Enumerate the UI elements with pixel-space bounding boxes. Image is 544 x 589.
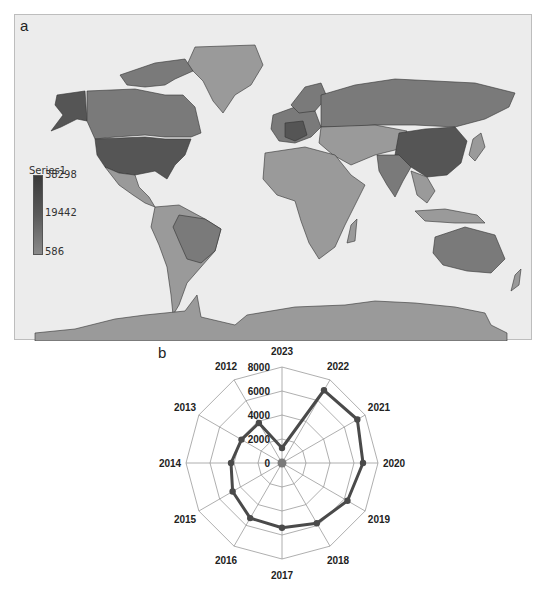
radar-data-point	[247, 515, 253, 521]
region-australia	[433, 227, 505, 273]
radar-center-marker	[278, 459, 287, 468]
world-map-panel: a Series1 38298 19442 586	[14, 14, 532, 340]
region-russia	[321, 79, 515, 127]
radar-category-label: 2015	[174, 514, 197, 525]
radar-category-label: 2018	[327, 555, 350, 566]
region-new-zealand	[511, 269, 521, 291]
world-map	[15, 15, 533, 341]
radar-category-label: 2020	[383, 458, 406, 469]
radar-data-point	[229, 488, 235, 494]
radar-category-label: 2012	[215, 361, 238, 372]
radar-data-point	[228, 460, 234, 466]
legend-mid-value: 19442	[45, 207, 77, 218]
radar-tick-label: 4000	[248, 410, 271, 421]
radar-data-point	[279, 525, 285, 531]
region-greenland	[187, 45, 263, 113]
radar-data-point	[354, 416, 360, 422]
radar-data-point	[279, 445, 285, 451]
region-canada	[87, 89, 201, 139]
radar-category-label: 2014	[159, 458, 182, 469]
radar-data-point	[238, 436, 244, 442]
region-antarctica	[35, 295, 507, 341]
radar-category-label: 2021	[368, 402, 391, 413]
radar-spoke	[282, 415, 365, 463]
radar-category-label: 2013	[174, 402, 197, 413]
region-madagascar	[347, 219, 357, 243]
radar-data-point	[321, 387, 327, 393]
region-indonesia	[415, 209, 485, 223]
radar-tick-label: 2000	[248, 434, 271, 445]
panel-label-a: a	[20, 17, 28, 34]
radar-data-point	[314, 520, 320, 526]
legend-min-value: 586	[45, 246, 64, 257]
radar-tick-label: 8000	[248, 362, 271, 373]
radar-category-label: 2022	[327, 361, 350, 372]
radar-data-point	[344, 498, 350, 504]
region-canada-islands	[120, 59, 193, 87]
radar-category-label: 2017	[271, 570, 294, 581]
radar-category-label: 2016	[215, 555, 238, 566]
radar-data-point	[360, 460, 366, 466]
region-japan	[469, 133, 485, 161]
radar-tick-label: 0	[264, 458, 270, 469]
radar-chart: 0200040006000800020232022202120202019201…	[0, 340, 544, 589]
radar-series	[228, 387, 366, 531]
radar-tick-label: 6000	[248, 386, 271, 397]
region-alaska	[51, 91, 87, 131]
radar-category-label: 2019	[368, 514, 391, 525]
radar-category-label: 2023	[271, 346, 294, 357]
legend-max-value: 38298	[45, 169, 77, 180]
legend-color-scale	[33, 175, 43, 255]
radar-spoke	[282, 463, 330, 546]
